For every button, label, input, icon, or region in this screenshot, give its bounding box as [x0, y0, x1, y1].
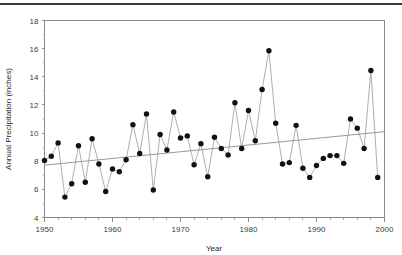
data-point-marker	[212, 135, 217, 140]
y-tick-label: 14	[30, 73, 39, 82]
data-point-marker	[123, 157, 128, 162]
precipitation-series-line	[45, 51, 378, 197]
data-point-marker	[239, 146, 244, 151]
y-tick-label: 12	[30, 101, 39, 110]
precipitation-chart: 4681012141618 195019601970198019902000 Y…	[0, 8, 402, 255]
y-axis-title: Annual Precipitation (inches)	[4, 68, 13, 170]
data-point-marker	[96, 161, 101, 166]
x-tick-label: 1970	[172, 225, 190, 234]
y-tick-label: 4	[34, 214, 39, 223]
data-point-marker	[300, 166, 305, 171]
data-point-marker	[266, 48, 271, 53]
y-tick-label: 6	[34, 185, 39, 194]
x-axis-title: Year	[206, 244, 223, 253]
y-tick-label: 16	[30, 45, 39, 54]
data-point-marker	[137, 151, 142, 156]
data-point-marker	[110, 166, 115, 171]
data-point-marker	[76, 143, 81, 148]
data-point-marker	[89, 136, 94, 141]
data-point-marker	[157, 132, 162, 137]
data-point-marker	[225, 152, 230, 157]
data-point-marker	[49, 154, 54, 159]
data-point-marker	[361, 146, 366, 151]
data-point-markers	[42, 48, 381, 200]
data-point-marker	[55, 140, 60, 145]
x-tick-label: 1990	[308, 225, 326, 234]
data-point-marker	[293, 123, 298, 128]
data-point-marker	[280, 161, 285, 166]
data-point-marker	[151, 187, 156, 192]
data-point-marker	[103, 189, 108, 194]
y-axis-ticks: 4681012141618	[30, 17, 45, 223]
data-point-marker	[69, 181, 74, 186]
data-point-marker	[348, 116, 353, 121]
x-tick-label: 1950	[36, 225, 54, 234]
data-point-marker	[130, 122, 135, 127]
data-point-marker	[117, 169, 122, 174]
x-tick-label: 1980	[240, 225, 258, 234]
data-point-marker	[327, 153, 332, 158]
data-point-marker	[314, 163, 319, 168]
data-point-marker	[287, 160, 292, 165]
data-point-marker	[334, 153, 339, 158]
y-tick-label: 18	[30, 17, 39, 26]
data-point-marker	[341, 161, 346, 166]
data-point-marker	[178, 135, 183, 140]
data-point-marker	[232, 100, 237, 105]
y-tick-label: 10	[30, 129, 39, 138]
data-point-marker	[205, 174, 210, 179]
x-axis-ticks: 195019601970198019902000	[36, 218, 394, 234]
data-point-marker	[191, 162, 196, 167]
data-point-marker	[307, 175, 312, 180]
data-point-marker	[273, 121, 278, 126]
data-point-marker	[62, 194, 67, 199]
axes-group	[45, 20, 385, 218]
data-point-marker	[164, 147, 169, 152]
data-point-marker	[253, 138, 258, 143]
data-point-marker	[246, 108, 251, 113]
data-point-marker	[259, 87, 264, 92]
chart-svg: 4681012141618 195019601970198019902000 Y…	[0, 8, 402, 255]
data-point-marker	[368, 68, 373, 73]
data-point-marker	[42, 158, 47, 163]
x-tick-label: 2000	[376, 225, 394, 234]
data-point-marker	[355, 125, 360, 130]
y-tick-label: 8	[34, 157, 39, 166]
data-point-marker	[171, 109, 176, 114]
data-point-marker	[198, 141, 203, 146]
chart-page: 4681012141618 195019601970198019902000 Y…	[0, 0, 402, 255]
data-point-marker	[83, 180, 88, 185]
data-point-marker	[321, 156, 326, 161]
data-point-marker	[375, 175, 380, 180]
x-tick-label: 1960	[104, 225, 122, 234]
data-point-marker	[144, 111, 149, 116]
data-point-marker	[219, 146, 224, 151]
top-horizontal-rule	[0, 3, 402, 5]
data-point-marker	[185, 133, 190, 138]
